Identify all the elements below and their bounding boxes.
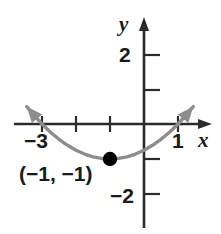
parabola-curve [27, 107, 194, 160]
vertex-point [103, 152, 117, 166]
graph-figure: y x 2 −2 −3 1 (−1, −1) [0, 0, 221, 234]
vertex-annotation-label: (−1, −1) [19, 163, 93, 184]
x-axis-label: x [198, 130, 209, 151]
parabola-path [27, 107, 194, 160]
y-tick-label-2: 2 [119, 44, 131, 65]
y-tick-label-neg2: −2 [110, 185, 134, 206]
y-axis [139, 17, 149, 228]
x-tick-label-1: 1 [172, 130, 184, 151]
x-tick-label-neg3: −3 [24, 130, 48, 151]
y-axis-label: y [119, 14, 128, 35]
y-axis-arrowhead [139, 17, 149, 31]
